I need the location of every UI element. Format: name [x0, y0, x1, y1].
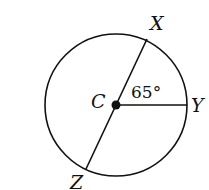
label-y: Y: [191, 94, 206, 116]
label-c: C: [91, 90, 106, 112]
label-x: X: [148, 12, 165, 34]
circle-diagram: X Y Z C 65°: [0, 0, 209, 190]
center-point: [112, 101, 121, 110]
label-z: Z: [69, 171, 84, 190]
angle-label: 65°: [131, 82, 161, 102]
